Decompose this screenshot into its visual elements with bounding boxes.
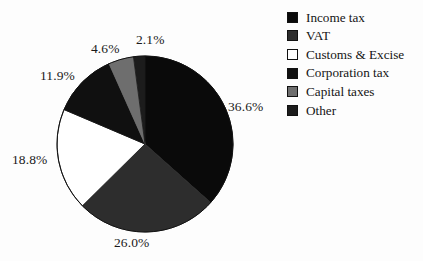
legend-item-label: Income tax xyxy=(306,11,365,24)
pie-slice-group xyxy=(57,56,233,232)
legend-item[interactable]: Income tax xyxy=(287,8,421,27)
legend-swatch-icon xyxy=(287,12,298,23)
legend-item[interactable]: Other xyxy=(287,101,421,120)
pie-percent-label: 11.9% xyxy=(40,68,75,84)
pie-chart-figure: 36.6%26.0%18.8%11.9%4.6%2.1% Income taxV… xyxy=(0,0,423,261)
legend-item-label: Corporation tax xyxy=(306,66,389,79)
legend-item[interactable]: Capital taxes xyxy=(287,82,421,101)
legend-swatch-icon xyxy=(287,30,298,41)
legend-item[interactable]: Customs & Excise xyxy=(287,45,421,64)
legend-swatch-icon xyxy=(287,68,298,79)
pie-percent-label: 2.1% xyxy=(136,32,165,48)
chart-legend: Income taxVATCustoms & ExciseCorporation… xyxy=(287,8,421,120)
pie-percent-label: 4.6% xyxy=(91,41,120,57)
pie-percent-label: 18.8% xyxy=(12,152,47,168)
legend-swatch-icon xyxy=(287,49,298,60)
legend-item-label: Other xyxy=(306,104,336,117)
legend-swatch-icon xyxy=(287,86,298,97)
legend-item-label: Customs & Excise xyxy=(306,48,404,61)
legend-item-label: Capital taxes xyxy=(306,85,374,98)
legend-swatch-icon xyxy=(287,105,298,116)
pie-percent-label: 26.0% xyxy=(114,235,149,251)
legend-item-label: VAT xyxy=(306,29,330,42)
legend-item[interactable]: Corporation tax xyxy=(287,64,421,83)
pie-plot-area: 36.6%26.0%18.8%11.9%4.6%2.1% xyxy=(0,0,265,261)
pie-svg xyxy=(0,0,265,261)
legend-item[interactable]: VAT xyxy=(287,27,421,46)
pie-percent-label: 36.6% xyxy=(228,99,263,115)
